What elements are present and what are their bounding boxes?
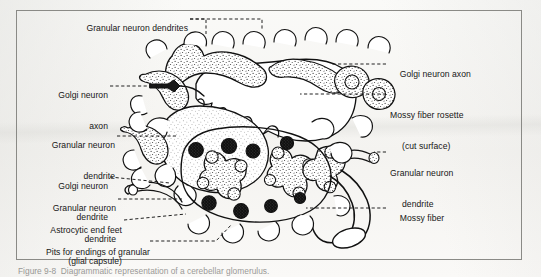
label-line-1: Granular neuron [30,140,115,150]
label-line-1: Pits for endings of granular [24,247,150,257]
label-granular-neuron-dendrites: Granular neuron dendrites [36,13,188,44]
label-line-1: Mossy fiber rosette [390,110,464,120]
label-line-1: Granular neuron [390,168,453,178]
label-text: Golgi neuron axon [400,69,471,79]
label-line-1: Golgi neuron [36,90,108,100]
label-text: Granular neuron dendrites [86,23,188,33]
label-golgi-neuron-axon-right: Golgi neuron axon [390,59,471,90]
figure-page: Granular neuron dendrites Golgi neuron a… [0,0,541,277]
label-text: Mossy fiber [400,213,444,223]
figure-caption: Figure 9-8 Diagrammatic representation o… [18,266,269,276]
label-mossy-fiber: Mossy fiber [390,203,444,234]
